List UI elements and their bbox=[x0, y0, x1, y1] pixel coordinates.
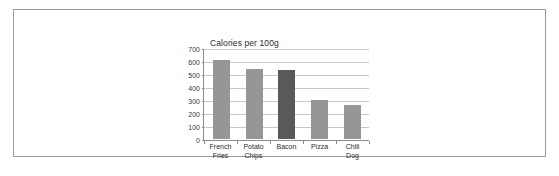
bar bbox=[344, 105, 361, 139]
y-axis-tick-label: 300 bbox=[188, 98, 200, 105]
plot-area bbox=[203, 49, 369, 141]
y-tickmark bbox=[202, 49, 204, 50]
screenshot-page: Calories per 100g 0100200300400500600700… bbox=[0, 0, 559, 176]
document-frame: Calories per 100g 0100200300400500600700… bbox=[13, 9, 546, 157]
y-axis-tick-label: 700 bbox=[188, 46, 200, 53]
y-tickmark bbox=[202, 127, 204, 128]
bar-slot bbox=[303, 49, 336, 139]
y-tickmark bbox=[202, 101, 204, 102]
y-tickmark bbox=[202, 62, 204, 63]
x-axis-category-label: Chili Dog bbox=[336, 143, 369, 160]
x-axis-labels: French FriesPotato ChipsBaconPizzaChili … bbox=[204, 143, 369, 160]
bar bbox=[213, 60, 230, 139]
x-axis-category-label: Potato Chips bbox=[237, 143, 270, 160]
y-tickmark bbox=[202, 114, 204, 115]
bar-slot bbox=[205, 49, 238, 139]
bar bbox=[246, 69, 263, 139]
page-edge-strip bbox=[0, 166, 559, 171]
y-axis-tick-label: 600 bbox=[188, 59, 200, 66]
y-tickmark bbox=[202, 88, 204, 89]
x-axis-category-label: Pizza bbox=[303, 143, 336, 160]
y-axis-tick-label: 0 bbox=[196, 137, 200, 144]
bar-slot bbox=[238, 49, 271, 139]
y-axis-labels: 0100200300400500600700 bbox=[184, 49, 200, 141]
bars-container bbox=[205, 49, 369, 139]
bar bbox=[311, 100, 328, 139]
bar bbox=[278, 70, 295, 139]
bar-slot bbox=[336, 49, 369, 139]
y-axis-tick-label: 500 bbox=[188, 72, 200, 79]
x-tickmark bbox=[369, 141, 370, 144]
x-axis-category-label: French Fries bbox=[204, 143, 237, 160]
chart-title: Calories per 100g bbox=[210, 38, 279, 48]
y-tickmark bbox=[202, 75, 204, 76]
bar-slot bbox=[271, 49, 304, 139]
y-axis-tick-label: 200 bbox=[188, 111, 200, 118]
y-axis-tick-label: 100 bbox=[188, 124, 200, 131]
y-axis-tick-label: 400 bbox=[188, 85, 200, 92]
bar-chart: Calories per 100g 0100200300400500600700… bbox=[184, 37, 379, 160]
x-axis-category-label: Bacon bbox=[270, 143, 303, 160]
